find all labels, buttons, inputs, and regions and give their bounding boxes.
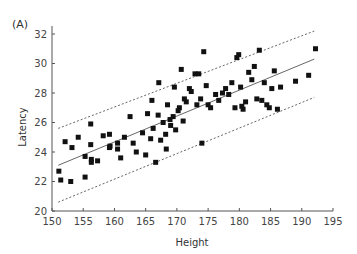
data-point (122, 135, 127, 140)
y-tick-label: 22 (34, 176, 47, 187)
data-point (158, 138, 163, 143)
data-point (149, 98, 154, 103)
data-point (232, 105, 237, 110)
data-point (208, 105, 213, 110)
data-point (134, 150, 139, 155)
data-point (229, 80, 234, 85)
data-point (238, 85, 243, 90)
data-point (216, 98, 221, 103)
data-point (272, 68, 277, 73)
data-point (198, 96, 203, 101)
data-point (76, 135, 81, 140)
x-tick-label: 170 (167, 216, 186, 227)
data-point (236, 52, 241, 57)
data-point (267, 105, 272, 110)
data-point (89, 160, 94, 165)
data-point (56, 169, 61, 174)
x-tick-label: 195 (323, 216, 342, 227)
data-point (204, 83, 209, 88)
data-point (269, 86, 274, 91)
x-tick-label: 160 (105, 216, 124, 227)
x-tick-label: 150 (42, 216, 61, 227)
y-tick-label: 24 (34, 147, 47, 158)
data-point (63, 139, 68, 144)
data-point (95, 158, 100, 163)
data-point (241, 107, 246, 112)
data-points (56, 46, 318, 184)
data-point (156, 113, 161, 118)
data-point (179, 67, 184, 72)
panel-label: (A) (12, 18, 28, 31)
data-point (163, 132, 168, 137)
x-tick-label: 165 (136, 216, 155, 227)
scatter-chart: (A) 150155160165170175180185190195202224… (0, 0, 357, 254)
x-tick-label: 155 (74, 216, 93, 227)
data-point (226, 92, 231, 97)
data-point (83, 154, 88, 159)
data-point (262, 80, 267, 85)
y-tick-label: 28 (34, 88, 47, 99)
y-tick-label: 30 (34, 58, 47, 69)
y-axis-title: Latency (17, 107, 28, 147)
regression-line (58, 59, 314, 165)
data-point (254, 96, 259, 101)
data-point (184, 99, 189, 104)
data-point (128, 114, 133, 119)
data-point (161, 120, 166, 125)
data-point (220, 91, 225, 96)
data-point (196, 71, 201, 76)
data-point (213, 92, 218, 97)
data-point (68, 179, 73, 184)
data-point (172, 85, 177, 90)
x-tick-label: 185 (261, 216, 280, 227)
data-point (177, 105, 182, 110)
data-point (101, 133, 106, 138)
data-point (199, 141, 204, 146)
data-point (145, 111, 150, 116)
data-point (58, 178, 63, 183)
data-point (115, 141, 120, 146)
data-point (171, 114, 176, 119)
data-point (107, 132, 112, 137)
x-tick-label: 180 (230, 216, 249, 227)
x-tick-label: 175 (199, 216, 218, 227)
data-point (156, 80, 161, 85)
data-point (153, 160, 158, 165)
data-point (201, 49, 206, 54)
data-point (306, 73, 311, 78)
data-point (275, 107, 280, 112)
x-axis-title: Height (175, 237, 208, 248)
fit-lines (58, 31, 314, 202)
data-point (223, 86, 228, 91)
axes: 1501551601651701751801851901952022242628… (34, 26, 342, 227)
data-point (181, 119, 186, 124)
upper-bound-line (58, 31, 314, 128)
data-point (249, 77, 254, 82)
data-point (88, 121, 93, 126)
y-tick-label: 20 (34, 206, 47, 217)
data-point (164, 147, 169, 152)
data-point (88, 142, 93, 147)
data-point (131, 141, 136, 146)
data-point (278, 85, 283, 90)
data-point (69, 145, 74, 150)
data-point (165, 102, 170, 107)
data-point (313, 46, 318, 51)
data-point (143, 152, 148, 157)
data-point (148, 136, 153, 141)
data-point (189, 89, 194, 94)
data-point (252, 64, 257, 69)
data-point (194, 102, 199, 107)
data-point (140, 130, 145, 135)
data-point (168, 123, 173, 128)
data-point (173, 127, 178, 132)
data-point (259, 98, 264, 103)
data-point (243, 99, 248, 104)
data-point (108, 144, 113, 149)
data-point (115, 147, 120, 152)
data-point (293, 79, 298, 84)
data-point (246, 70, 251, 75)
data-point (257, 48, 262, 53)
y-tick-label: 32 (34, 29, 47, 40)
y-tick-label: 26 (34, 117, 47, 128)
